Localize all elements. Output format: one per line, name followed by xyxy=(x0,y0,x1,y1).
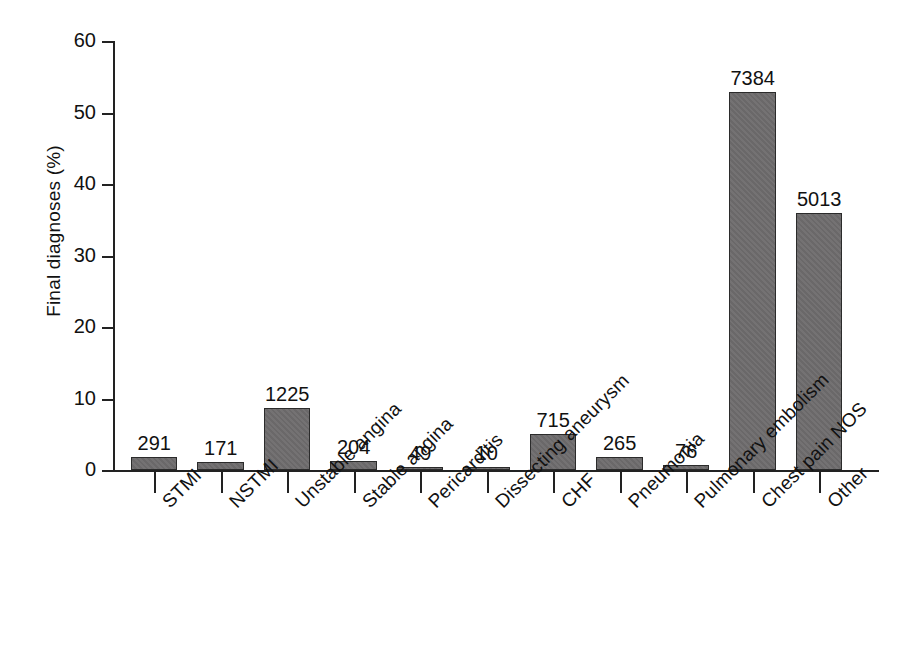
bar-value-label: 5013 xyxy=(797,188,842,210)
bar[interactable]: 7384 xyxy=(729,92,776,470)
bar[interactable]: 171 xyxy=(197,462,244,470)
y-axis-tick-label: 20 xyxy=(74,315,96,337)
y-axis-tick: 40 xyxy=(102,184,113,186)
y-axis-tick-label: 10 xyxy=(74,387,96,409)
x-axis-tick xyxy=(686,471,688,493)
x-axis-line xyxy=(113,470,879,472)
plot-area: 0102030405060 29117112252044910715265767… xyxy=(113,41,879,470)
x-axis-tick xyxy=(221,471,223,493)
y-axis-tick: 50 xyxy=(102,113,113,115)
bar-value-label: 171 xyxy=(204,437,237,459)
y-axis-tick: 30 xyxy=(102,256,113,258)
y-axis-tick-label: 50 xyxy=(74,101,96,123)
bar-value-label: 265 xyxy=(603,432,636,454)
y-axis-tick: 0 xyxy=(102,470,113,472)
y-axis-tick-label: 30 xyxy=(74,244,96,266)
x-axis-tick xyxy=(287,471,289,493)
bar[interactable]: 265 xyxy=(596,457,643,470)
y-axis-tick: 60 xyxy=(102,41,113,43)
x-axis-category-label: CHF xyxy=(557,469,600,512)
x-axis-tick xyxy=(354,471,356,493)
bar-value-label: 291 xyxy=(138,432,171,454)
y-axis-tick: 20 xyxy=(102,327,113,329)
x-axis-tick xyxy=(620,471,622,493)
x-axis-tick xyxy=(154,471,156,493)
bar-chart-figure: Final diagnoses (%) 0102030405060 291171… xyxy=(0,0,907,670)
x-axis-tick xyxy=(553,471,555,493)
y-axis-tick-label: 0 xyxy=(85,458,96,480)
bar[interactable]: 291 xyxy=(131,457,178,470)
bar-value-label: 1225 xyxy=(265,383,310,405)
y-axis-tick: 10 xyxy=(102,399,113,401)
x-axis-tick xyxy=(819,471,821,493)
y-axis-line xyxy=(113,41,115,471)
x-axis-tick xyxy=(487,471,489,493)
x-axis-tick xyxy=(420,471,422,493)
y-axis-tick-label: 40 xyxy=(74,172,96,194)
y-axis-label: Final diagnoses (%) xyxy=(43,81,65,381)
bar-value-label: 7384 xyxy=(730,67,775,89)
x-axis-tick xyxy=(753,471,755,493)
y-axis-tick-label: 60 xyxy=(74,29,96,51)
